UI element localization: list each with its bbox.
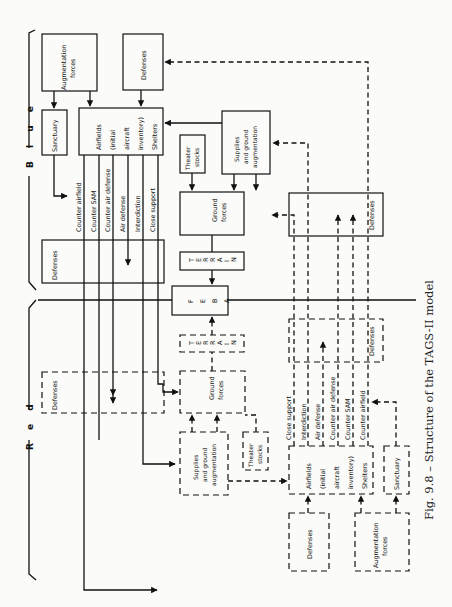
svg-text:N: N (230, 340, 238, 345)
svg-text:Counter SAM: Counter SAM (344, 398, 352, 440)
blue-defenses-right-label: Defenses (368, 200, 376, 230)
red-mission-lines (165, 62, 368, 446)
svg-text:B: B (211, 299, 219, 303)
red-terrain-label: T E R R A I N (188, 340, 238, 346)
red-theater-stocks-label: Theaterstocks (247, 443, 263, 468)
svg-text:Close support: Close support (285, 396, 293, 440)
red-sanctuary-to-airfield (372, 402, 396, 446)
feba-label: F E B A (187, 298, 231, 303)
blue-defenses-top-label: Defenses (140, 50, 148, 80)
svg-text:Air defense: Air defense (119, 196, 127, 232)
red-ground-forces-label: Groundforces (208, 376, 225, 400)
red-defenses-left-box (42, 372, 164, 413)
red-defenses-bottom-label: Defenses (306, 529, 314, 559)
blue-supplies-label: Suppliesand groundaugmentation (233, 126, 259, 168)
svg-text:Counter air defense: Counter air defense (329, 377, 337, 440)
blue-theater-stocks-label: Theaterstocks (184, 146, 200, 171)
blue-terrain-label: T E R R A I N (188, 257, 238, 263)
blue-defenses-mid-box (42, 240, 164, 283)
svg-text:Close support: Close support (149, 188, 157, 232)
red-augmentation-forces-label: Augmentationforces (372, 523, 389, 568)
blue-ground-forces-label: Groundforces (211, 198, 228, 222)
svg-text:Interdiction: Interdiction (134, 196, 142, 232)
svg-text:F: F (187, 299, 195, 303)
tags-ii-diagram: B l u e R e d Augmentationforces Defense… (0, 0, 452, 607)
red-side-label: R e d (25, 399, 35, 450)
blue-sanctuary-label: Sanctuary (51, 119, 59, 152)
svg-text:Air defense: Air defense (314, 404, 322, 440)
red-theater-to-ground (245, 415, 256, 432)
red-mission-labels: Close support Interdiction Air defense C… (285, 377, 367, 440)
red-defenses-right-label: Defenses (368, 326, 376, 356)
blue-augmentation-forces-label: Augmentationforces (60, 45, 77, 90)
svg-text:Interdiction: Interdiction (300, 404, 308, 440)
figure-caption: Fig. 9.8 – Structure of the TAGS-II mode… (422, 280, 436, 520)
red-defenses-left-label: Defenses (51, 380, 59, 410)
red-supplies-label: Suppliesand groundaugmentation (192, 444, 218, 486)
red-airfields-label: Airfields (initial aircraft inventory) S… (305, 454, 369, 489)
svg-text:E: E (199, 299, 207, 303)
svg-text:A: A (223, 298, 231, 303)
svg-text:Counter airfield: Counter airfield (359, 390, 367, 440)
svg-text:N: N (230, 257, 238, 262)
svg-text:Counter air defense: Counter air defense (104, 169, 112, 232)
svg-text:Counter airfield: Counter airfield (75, 182, 83, 232)
blue-mission-labels: Counter airfield Counter SAM Counter air… (75, 169, 157, 232)
red-sanctuary-label: Sanctuary (393, 457, 401, 490)
blue-sanctuary-to-airfield (54, 155, 67, 196)
blue-side-label: B l u e (25, 101, 35, 168)
svg-text:Counter SAM: Counter SAM (90, 190, 98, 232)
blue-defenses-mid-label: Defenses (51, 250, 59, 280)
blue-airfields-label: Airfields (initial aircraft inventory) S… (95, 115, 159, 150)
